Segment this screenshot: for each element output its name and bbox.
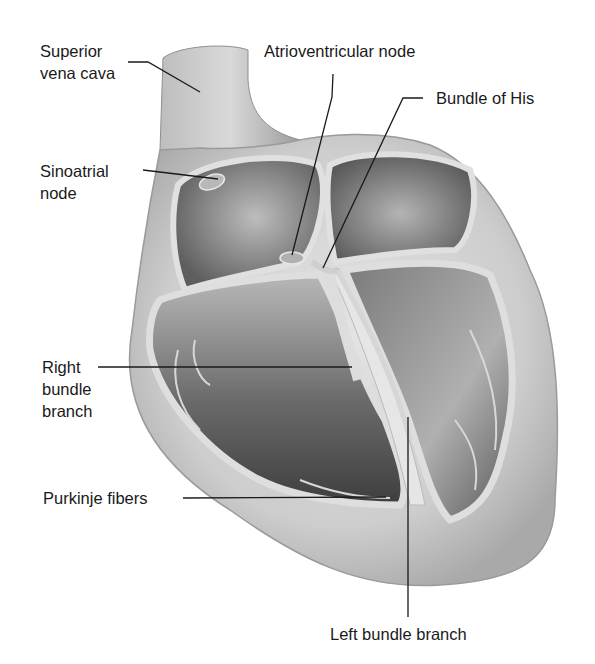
label-atrioventricular-node: Atrioventricular node: [264, 40, 415, 62]
label-atrioventricular-node-text: Atrioventricular node: [264, 40, 415, 62]
label-purkinje-fibers-text: Purkinje fibers: [43, 487, 148, 509]
left-atrium: [328, 154, 475, 262]
label-purkinje-fibers: Purkinje fibers: [43, 487, 148, 509]
label-right-bundle-branch-line1: Right: [42, 356, 92, 378]
label-sinoatrial-node-line2: node: [40, 182, 109, 204]
label-left-bundle-branch: Left bundle branch: [330, 623, 467, 645]
label-bundle-of-his: Bundle of His: [436, 87, 534, 109]
label-right-bundle-branch-line2: bundle: [42, 378, 92, 400]
superior-vena-cava-shape: [160, 46, 300, 160]
heart-conduction-diagram: Superior vena cava Atrioventricular node…: [0, 0, 595, 664]
label-right-bundle-branch: Right bundle branch: [42, 356, 92, 422]
label-left-bundle-branch-text: Left bundle branch: [330, 623, 467, 645]
label-right-bundle-branch-line3: branch: [42, 400, 92, 422]
label-superior-vena-cava-line2: vena cava: [40, 62, 115, 84]
label-sinoatrial-node: Sinoatrial node: [40, 160, 109, 204]
label-bundle-of-his-text: Bundle of His: [436, 87, 534, 109]
label-superior-vena-cava-line1: Superior: [40, 40, 115, 62]
label-sinoatrial-node-line1: Sinoatrial: [40, 160, 109, 182]
label-superior-vena-cava: Superior vena cava: [40, 40, 115, 84]
